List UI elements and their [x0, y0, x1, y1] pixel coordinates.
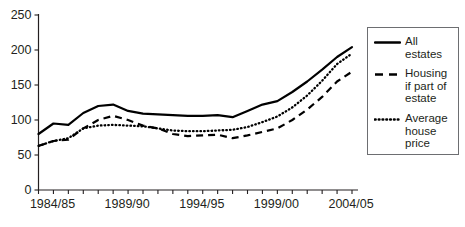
dashed-line-swatch — [374, 68, 401, 81]
y-tick-label: 200 — [11, 43, 32, 57]
series-group — [39, 47, 353, 146]
x-tick-label: 2004/05 — [328, 197, 373, 211]
y-tick-label: 100 — [11, 113, 32, 127]
y-tick-group: 050100150200250 — [11, 8, 39, 197]
legend-label-all-estates: All estates — [405, 35, 453, 60]
series-line-average-house-price — [39, 54, 353, 146]
legend-item-all-estates: All estates — [374, 35, 453, 60]
y-tick-label: 0 — [25, 183, 32, 197]
y-axis: 050100150200250 — [11, 8, 39, 197]
solid-line-swatch — [374, 36, 401, 49]
y-tick-label: 50 — [18, 148, 32, 162]
series-line-all-estates — [39, 47, 353, 134]
x-tick-label: 1994/95 — [179, 197, 224, 211]
line-chart: 050100150200250 1984/851989/901994/95199… — [0, 0, 465, 227]
x-tick-label-group: 1984/851989/901994/951999/002004/05 — [30, 197, 374, 211]
x-axis — [39, 190, 359, 194]
x-tick-group — [39, 190, 353, 194]
x-tick-label: 1984/85 — [30, 197, 75, 211]
chart-legend: All estates Housing if part of estate Av… — [367, 27, 459, 155]
legend-label-housing-if-part-of-estate: Housing if part of estate — [405, 67, 453, 105]
x-tick-label: 1989/90 — [105, 197, 150, 211]
legend-item-average-house-price: Average house price — [374, 112, 453, 150]
dotted-line-swatch — [374, 113, 401, 126]
y-tick-label: 250 — [11, 8, 32, 22]
legend-label-average-house-price: Average house price — [405, 112, 453, 150]
x-tick-label: 1999/00 — [254, 197, 299, 211]
y-tick-label: 150 — [11, 78, 32, 92]
legend-item-housing-if-part-of-estate: Housing if part of estate — [374, 67, 453, 105]
